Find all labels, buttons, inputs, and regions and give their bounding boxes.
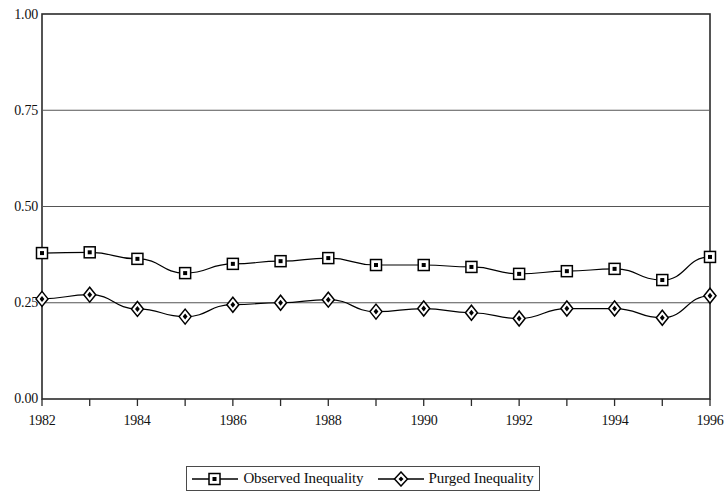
legend-entry-observed: Observed Inequality: [192, 470, 363, 487]
data-point-marker-core: [40, 251, 44, 255]
ytick-label-1: 1.00: [0, 7, 38, 23]
xtick-label-1990: 1990: [394, 413, 454, 429]
xtick-label-1984: 1984: [107, 413, 167, 429]
xtick-label-1994: 1994: [585, 413, 645, 429]
legend-label-purged: Purged Inequality: [429, 470, 534, 487]
ytick-label-5: 0.00: [0, 391, 38, 407]
xtick-label-1986: 1986: [203, 413, 263, 429]
legend-entry-purged: Purged Inequality: [378, 470, 534, 487]
data-point-marker-core: [517, 272, 521, 276]
ytick-label-2: 0.75: [0, 103, 38, 119]
data-point-marker-core: [660, 278, 664, 282]
data-point-marker-core: [565, 269, 569, 273]
data-point-marker-core: [88, 250, 92, 254]
data-point-marker-core: [613, 267, 617, 271]
xtick-label-1992: 1992: [489, 413, 549, 429]
xtick-label-1982: 1982: [12, 413, 72, 429]
data-point-marker-core: [231, 262, 235, 266]
data-point-marker-core: [135, 257, 139, 261]
chart-legend: Observed Inequality Purged Inequality: [186, 466, 540, 491]
legend-marker-diamond-icon: [378, 471, 424, 487]
x-axis-ticks: [42, 399, 710, 406]
inequality-line-chart: 1.00 0.75 0.50 0.25 0.00 1982 1984 1986 …: [0, 0, 726, 493]
ytick-label-4: 0.25: [0, 295, 38, 311]
data-point-marker-core: [374, 263, 378, 267]
xtick-label-1988: 1988: [298, 413, 358, 429]
xtick-label-1996: 1996: [680, 413, 726, 429]
data-point-marker-core: [183, 271, 187, 275]
legend-label-observed: Observed Inequality: [243, 470, 363, 487]
legend-marker-square-icon: [192, 471, 238, 487]
ytick-label-3: 0.50: [0, 199, 38, 215]
data-point-marker-core: [708, 255, 712, 259]
data-point-marker-core: [469, 265, 473, 269]
data-point-marker-core: [326, 256, 330, 260]
data-point-marker-core: [279, 259, 283, 263]
data-point-marker-core: [422, 263, 426, 267]
